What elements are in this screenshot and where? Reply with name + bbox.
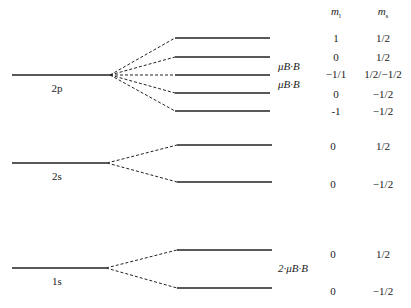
ms-value: 1/2/−1/2 [364,68,401,80]
level-1s-label: 1s [52,275,62,287]
level-2p-label: 2p [52,82,63,94]
ml-value: −1/1 [326,68,346,80]
ms-value: 1/2 [376,51,390,63]
ml-value: 0 [333,51,339,63]
zeeman-diagram: ml ms 2p 2s 1s μB·B μB·B 2·μB·B 1 1/2 0 … [0,0,411,308]
mub-annotation-1: μB·B [278,60,300,72]
ms-value: −1/2 [373,88,393,100]
ml-value: 0 [330,140,336,152]
energy-level-lines [0,0,411,308]
ml-value: 1 [333,32,339,44]
ms-header: ms [378,5,389,20]
two-mub-annotation: 2·μB·B [278,262,308,274]
ms-value: 1/2 [376,140,390,152]
ml-value: 0 [333,88,339,100]
ml-value: 0 [330,248,336,260]
ml-value: 0 [330,285,336,297]
ml-header: ml [331,5,341,20]
level-2s-label: 2s [52,170,62,182]
ms-value: 1/2 [376,32,390,44]
ml-value: 0 [330,178,336,190]
ms-value: −1/2 [373,285,393,297]
ms-value: −1/2 [373,178,393,190]
mub-annotation-2: μB·B [278,78,300,90]
ms-value: 1/2 [376,248,390,260]
ml-value: -1 [331,105,340,117]
ms-value: −1/2 [373,105,393,117]
